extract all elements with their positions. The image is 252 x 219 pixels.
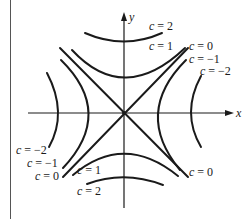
curve-cm1-left xyxy=(61,60,89,168)
curve-label-bot-c1: c = 1 xyxy=(77,164,101,176)
curve-cm2-right xyxy=(191,76,201,147)
curve-label-bot-cm1: c = −1 xyxy=(27,157,58,169)
curve-cm1-right xyxy=(158,60,186,170)
curve-label-bot-cm2: c = −2 xyxy=(16,144,47,156)
curve-label-bot-c2: c = 2 xyxy=(77,185,101,197)
curve-label-bot-c0-right: c = 0 xyxy=(189,166,213,178)
x-axis-label: x xyxy=(236,107,241,119)
y-axis-arrow-icon xyxy=(121,12,127,21)
diagram-canvas xyxy=(0,0,252,219)
curve-label-bot-c0-left: c = 0 xyxy=(35,170,59,182)
x-axis-arrow-icon xyxy=(225,110,234,116)
curve-label-top-c2: c = 2 xyxy=(149,20,173,32)
hyperbola-level-curves-diagram: x y c = 2c = 1c = 0c = −1c = −2c = −2c =… xyxy=(0,0,252,219)
curve-cm2-left xyxy=(47,73,58,147)
curve-label-top-c0: c = 0 xyxy=(189,40,213,52)
y-axis-label: y xyxy=(129,11,134,23)
curve-label-top-cm2: c = −2 xyxy=(200,65,231,77)
curve-label-top-c1: c = 1 xyxy=(149,40,173,52)
